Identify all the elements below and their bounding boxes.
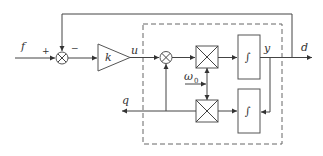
- input-label-f: f: [20, 40, 27, 53]
- output-label-d: d: [301, 41, 308, 54]
- plus-sign: +: [42, 46, 50, 56]
- summing-junction-2: [160, 52, 172, 64]
- integrator-1-symbol: ∫: [245, 51, 251, 64]
- multiplier-1: [196, 46, 218, 68]
- y-to-integrator-2: [261, 58, 270, 113]
- dashed-subsystem-box: [143, 24, 282, 144]
- summing-junction-1: [56, 52, 68, 64]
- omega-subscript: 0: [194, 77, 198, 85]
- multiplier-2: [196, 100, 218, 122]
- control-label-u: u: [131, 44, 138, 57]
- arrow-down-mult2: [205, 95, 210, 100]
- gain-block: [98, 44, 130, 71]
- output-label-y: y: [263, 42, 271, 55]
- block-diagram: f + − k u ∫ y d ω 0: [0, 0, 323, 156]
- omega-label: ω: [184, 70, 193, 83]
- gain-label-k: k: [105, 51, 112, 64]
- minus-sign: −: [71, 43, 79, 53]
- integrator-2-symbol: ∫: [245, 105, 251, 118]
- arrow-up-mult1: [205, 68, 210, 73]
- output-label-q: q: [122, 94, 129, 107]
